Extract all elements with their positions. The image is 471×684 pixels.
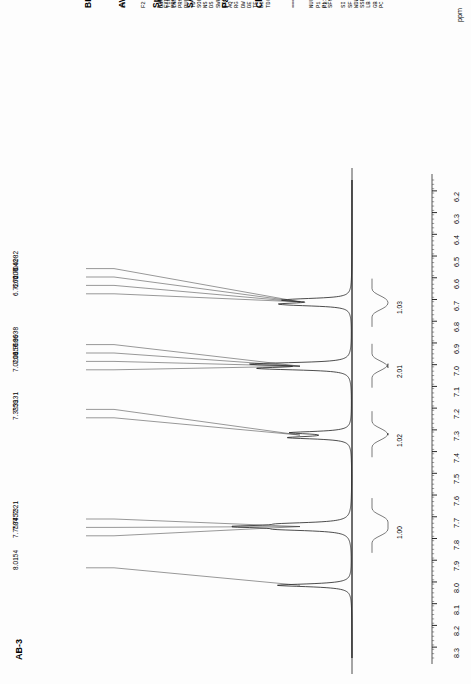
f2-acq-title: F2 - Acquisition Parameters (141, 0, 147, 8)
axis-tick-label: 7.8 (452, 540, 461, 550)
current-data-title: Current Data Parameters (121, 0, 127, 8)
sample-id-label: AB-3 (14, 639, 24, 660)
axis-tick-label: 7.3 (452, 431, 461, 441)
channel-f1-title: ======== CHANNEL f1 ======== (291, 0, 297, 8)
integral-value-label: 1.00 (396, 526, 403, 539)
axis-tick-label: 7.7 (452, 518, 461, 528)
axis-tick-label: 6.3 (452, 214, 461, 224)
axis-tick-label: 7.1 (452, 387, 461, 397)
axis-tick-label: 8.1 (452, 605, 461, 615)
peak-shift-label: 8.0154 (12, 550, 19, 570)
header-line-brand: BRUKER (83, 0, 94, 8)
axis-tick-label: 6.6 (452, 279, 461, 289)
axis-tick-label: 7.9 (452, 561, 461, 571)
ppm-axis-label: ppm (455, 8, 464, 22)
param-row-td0: TD0 1 (266, 0, 272, 8)
integral-value-label: 2.01 (396, 366, 403, 379)
axis-tick-label: 6.2 (452, 192, 461, 202)
peak-shift-label: 6.9938 (12, 327, 19, 347)
peak-shift-label: 7.7321 (12, 501, 19, 521)
f2-acquisition-parameters-block: F2 - Acquisition Parameters Date_ 201212… (128, 0, 272, 8)
peak-shift-label-group (28, 150, 88, 665)
axis-tick-label: 6.8 (452, 322, 461, 332)
param-row-pc: PC 1.00 (379, 0, 385, 8)
axis-tick-label: 7.4 (452, 453, 461, 463)
axis-tick-label: 7.5 (452, 474, 461, 484)
axis-tick-label: 7.6 (452, 496, 461, 506)
integral-value-label: 1.02 (396, 434, 403, 447)
axis-tick-label: 7.2 (452, 409, 461, 419)
axis-tick-label: 6.7 (452, 301, 461, 311)
peak-shift-label: 6.6982 (12, 251, 19, 271)
nmr-spectrum-page: BRUKER AVANCE II 400 NMR Spectrometer SA… (0, 0, 471, 684)
axis-tick-label: 8.0 (452, 583, 461, 593)
axis-tick-label: 6.5 (452, 257, 461, 267)
axis-tick-label: 8.3 (452, 648, 461, 658)
integral-value-label: 1.03 (396, 301, 403, 314)
f2-proc-title: F2 - Processing parameters (323, 0, 329, 8)
axis-tick-label: 6.4 (452, 235, 461, 245)
axis-tick-label: 6.9 (452, 344, 461, 354)
f2-processing-parameters-block: F2 - Processing parameters SI 32768SF 40… (310, 0, 385, 8)
peak-shift-label: 7.3131 (12, 391, 19, 411)
axis-tick-label: 8.2 (452, 626, 461, 636)
axis-tick-label: 7.0 (452, 366, 461, 376)
